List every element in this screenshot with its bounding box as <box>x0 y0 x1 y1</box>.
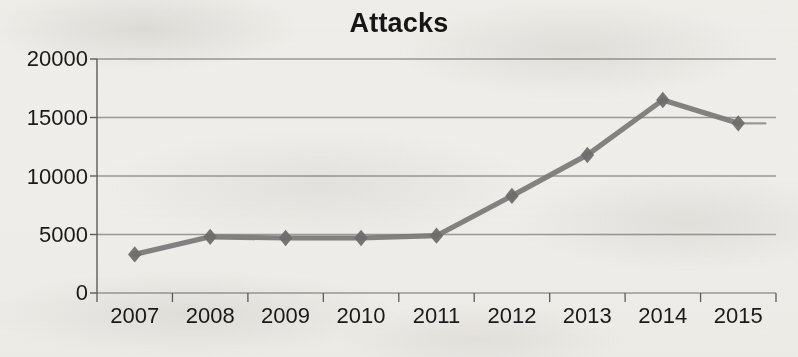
x-tick-label-2010: 2010 <box>323 303 398 329</box>
x-tick-label-2014: 2014 <box>625 303 700 329</box>
data-point-2011 <box>430 227 443 243</box>
x-tick-label-2007: 2007 <box>97 303 172 329</box>
x-tick-label-2011: 2011 <box>399 303 474 329</box>
attacks-line-chart: Attacks 0 5000 10000 15000 20000 2007 20… <box>0 0 798 357</box>
data-point-2012 <box>505 188 518 204</box>
x-tick-label-2013: 2013 <box>550 303 625 329</box>
x-axis-ticks <box>97 293 776 302</box>
gridlines <box>97 59 776 293</box>
x-tick-label-2009: 2009 <box>248 303 323 329</box>
x-tick-label-2012: 2012 <box>474 303 549 329</box>
x-tick-label-2008: 2008 <box>172 303 247 329</box>
x-tick-label-2015: 2015 <box>701 303 776 329</box>
data-point-2009 <box>279 230 292 246</box>
axis-lines <box>90 59 97 293</box>
data-point-2010 <box>354 230 367 246</box>
x-axis: 2007 2008 2009 2010 2011 2012 2013 2014 … <box>97 303 776 329</box>
data-point-2007 <box>128 246 141 262</box>
data-point-2008 <box>203 229 216 245</box>
